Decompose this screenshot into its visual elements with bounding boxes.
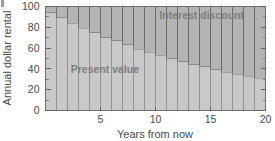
x-tick-label: 20 (260, 113, 272, 125)
bar-segment-present-value (211, 70, 222, 111)
y-tick-label: 20 (28, 83, 40, 95)
bar-segment-interest-discount (101, 7, 112, 38)
bar-segment-present-value (167, 59, 178, 111)
x-tick-label: 10 (150, 113, 162, 125)
bar-segment-present-value (112, 41, 123, 111)
y-tick-label: 40 (28, 63, 40, 75)
bar-segment-present-value (123, 45, 134, 111)
y-tick-label: 100 (22, 0, 40, 12)
bar-segment-present-value (156, 55, 167, 110)
bar-segment-interest-discount (244, 7, 255, 77)
series-annotation-label: Present value (71, 63, 139, 75)
bar-segment-interest-discount (79, 7, 90, 29)
chart-container: 020406080100 5101520 Interest discountPr… (0, 0, 275, 141)
bar-segment-interest-discount (145, 7, 156, 53)
bar-segment-present-value (134, 49, 145, 110)
stacked-bar-chart: 020406080100 5101520 Interest discountPr… (0, 0, 275, 141)
y-tick-label: 60 (28, 42, 40, 54)
x-tick-label: 15 (205, 113, 217, 125)
bar-segment-present-value (233, 74, 244, 110)
bar-segment-present-value (178, 62, 189, 111)
bar-segment-present-value (244, 76, 255, 110)
bar-segment-interest-discount (57, 7, 68, 18)
y-axis-title: Annual dollar rental (1, 11, 13, 106)
bars-layer (46, 7, 266, 111)
bar-segment-present-value (189, 65, 200, 111)
bar-segment-present-value (145, 52, 156, 110)
bar-segment-interest-discount (123, 7, 134, 45)
bar-segment-interest-discount (90, 7, 101, 33)
bar-segment-present-value (200, 67, 211, 111)
bar-segment-present-value (57, 18, 68, 111)
x-axis-title: Years from now (117, 128, 193, 140)
y-tick-label: 0 (34, 104, 40, 116)
series-annotation-label: Interest discount (159, 9, 244, 21)
bar-segment-interest-discount (134, 7, 145, 50)
bar-segment-interest-discount (68, 7, 79, 24)
corner-marker (1, 0, 4, 7)
bar-segment-interest-discount (112, 7, 123, 41)
bar-segment-interest-discount (46, 7, 57, 13)
bar-segment-present-value (255, 78, 266, 110)
x-tick-label: 5 (98, 113, 104, 125)
y-tick-label: 80 (28, 21, 40, 33)
bar-segment-present-value (222, 72, 233, 110)
